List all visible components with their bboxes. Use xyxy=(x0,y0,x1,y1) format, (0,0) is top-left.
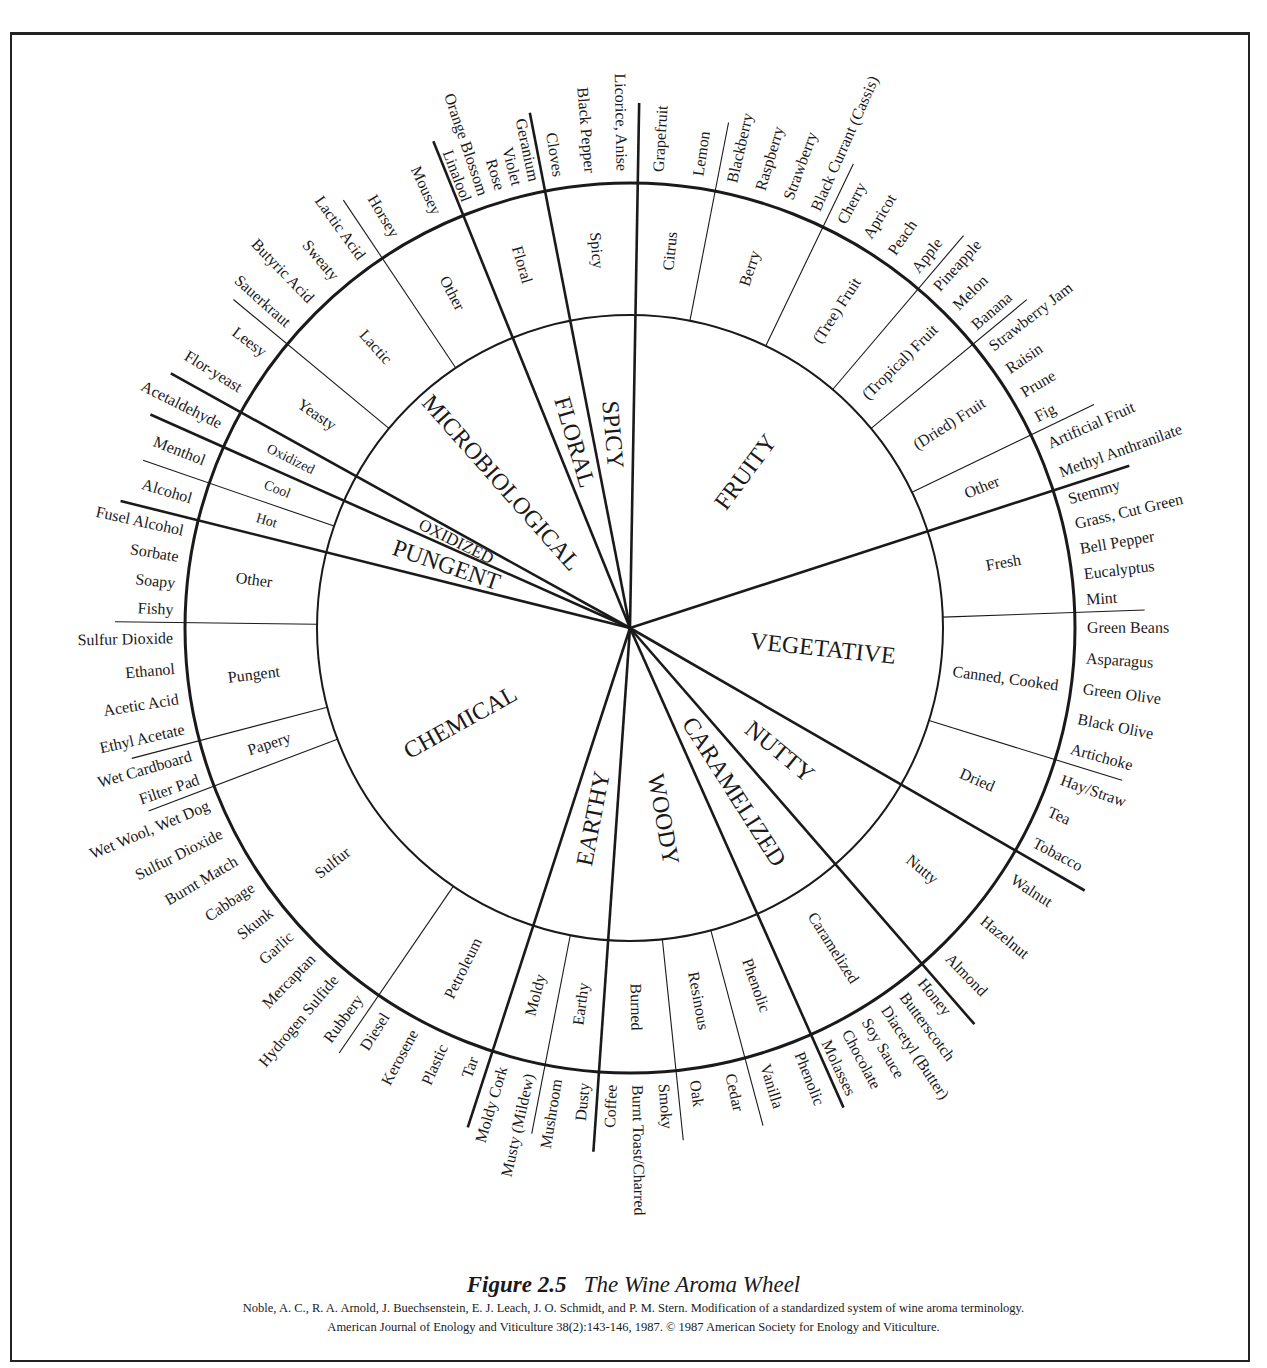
descriptor-label: Skunk xyxy=(234,904,277,943)
subcategory-label: Burned xyxy=(628,983,646,1030)
descriptor-label: Oak xyxy=(687,1079,708,1108)
subcategory-label: Berry xyxy=(736,248,765,288)
aroma-wheel: FRUITYCitrusGrapefruitLemonBerryBlackber… xyxy=(0,0,1267,1368)
descriptor-label: Leesy xyxy=(229,323,270,360)
descriptor-label: Sulfur Dioxide xyxy=(77,629,173,648)
descriptor-label: Cloves xyxy=(543,131,567,178)
descriptor-label: Moldy Cork xyxy=(472,1064,511,1145)
descriptor-label: Horsey xyxy=(364,192,403,241)
descriptor-label: Garlic xyxy=(255,928,296,967)
figure-title: The Wine Aroma Wheel xyxy=(584,1272,801,1297)
descriptor-label: Eucalyptus xyxy=(1083,557,1156,583)
subcategory-label: Earthy xyxy=(569,982,592,1027)
descriptor-label: Hay/Straw xyxy=(1058,771,1129,811)
subcategory-divider xyxy=(912,405,1094,493)
descriptor-label: Stemmy xyxy=(1066,476,1122,508)
descriptor-label: Coffee xyxy=(601,1084,620,1128)
descriptor-label: Green Olive xyxy=(1082,680,1162,707)
descriptor-label: Sorbate xyxy=(129,540,180,564)
descriptor-label: Diesel xyxy=(357,1009,394,1053)
category-divider xyxy=(630,466,1129,628)
category-label: WOODY xyxy=(643,772,685,867)
subcategory-label: (Tropical) Fruit xyxy=(858,320,942,403)
descriptor-label: Green Beans xyxy=(1087,619,1169,636)
subcategory-label: Citrus xyxy=(659,231,680,272)
descriptor-label: Plastic xyxy=(418,1042,451,1088)
descriptor-label: Fishy xyxy=(137,599,173,618)
category-divider xyxy=(630,628,844,1108)
descriptor-label: Lemon xyxy=(689,130,713,177)
descriptor-label: Menthol xyxy=(151,433,208,469)
descriptor-label: Dusty xyxy=(572,1082,594,1122)
figure-title-line: Figure 2.5 The Wine Aroma Wheel xyxy=(0,1272,1267,1298)
category-divider xyxy=(121,501,630,628)
figure-caption: Figure 2.5 The Wine Aroma Wheel Noble, A… xyxy=(0,1272,1267,1336)
subcategory-label: Canned, Cooked xyxy=(952,663,1060,694)
descriptor-label: Blackberry xyxy=(723,111,756,184)
descriptor-label: Grapefruit xyxy=(649,104,671,172)
descriptor-label: Black Olive xyxy=(1076,710,1155,742)
descriptor-label: Bell Pepper xyxy=(1079,527,1157,558)
figure-number: Figure 2.5 xyxy=(467,1272,567,1297)
descriptor-label: Acetaldehyde xyxy=(138,377,225,432)
citation-line-2: American Journal of Enology and Viticult… xyxy=(0,1319,1267,1336)
descriptor-label: Acetic Acid xyxy=(102,690,180,719)
subcategory-divider xyxy=(115,622,317,624)
descriptor-label: Peach xyxy=(884,217,920,258)
subcategory-label: Sulfur xyxy=(311,843,353,882)
descriptor-label: Hazelnut xyxy=(977,912,1033,962)
descriptor-label: Mousey xyxy=(407,163,445,217)
subcategory-label: Petroleum xyxy=(441,934,486,1001)
descriptor-label: Cherry xyxy=(834,179,871,227)
descriptor-label: Fig xyxy=(1032,400,1059,426)
subcategory-label: Nutty xyxy=(902,851,942,888)
descriptor-label: Fusel Alcohol xyxy=(94,503,185,539)
descriptor-label: Raspberry xyxy=(752,124,788,192)
descriptor-label: Cedar xyxy=(722,1072,747,1114)
subcategory-label: Dried xyxy=(957,765,997,795)
subcategory-label: Moldy xyxy=(522,972,550,1018)
descriptor-label: Raisin xyxy=(1002,340,1045,377)
category-label: SPICY xyxy=(597,400,629,470)
descriptor-label: Soapy xyxy=(135,570,177,592)
descriptor-label: Burnt Toast/Charred xyxy=(629,1085,648,1216)
category-label: EARTHY xyxy=(571,769,615,868)
descriptor-label: Ethanol xyxy=(124,660,176,681)
subcategory-label: Oxidized xyxy=(265,441,318,477)
subcategory-label: Fresh xyxy=(984,551,1022,574)
descriptor-label: Hydrogen Sulfide xyxy=(255,972,342,1071)
subcategory-label: Resinous xyxy=(685,970,712,1031)
subcategory-label: Lactic xyxy=(356,326,395,367)
category-label: CHEMICAL xyxy=(399,680,521,764)
category-divider xyxy=(630,628,974,1024)
subcategory-label: Other xyxy=(962,472,1003,502)
subcategory-label: Spicy xyxy=(586,232,607,270)
descriptor-label: Tobacco xyxy=(1030,834,1086,874)
subcategory-label: Papery xyxy=(245,729,293,760)
category-label: VEGETATIVE xyxy=(749,628,897,669)
subcategory-label: Caramelized xyxy=(805,909,863,986)
subcategory-label: Hot xyxy=(254,510,279,530)
descriptor-label: Kerosene xyxy=(378,1027,422,1088)
descriptor-label: Artichoke xyxy=(1069,740,1135,773)
descriptor-label: Asparagus xyxy=(1085,649,1154,671)
descriptor-label: Black Currant (Cassis) xyxy=(807,73,882,214)
descriptor-label: Sweaty xyxy=(299,236,343,284)
descriptor-label: Flor-yeast xyxy=(181,347,246,396)
descriptor-label: Licorice, Anise xyxy=(612,73,631,171)
descriptor-label: Alcohol xyxy=(140,475,195,506)
subcategory-label: Other xyxy=(437,273,469,314)
citation-line-1: Noble, A. C., R. A. Arnold, J. Buechsens… xyxy=(0,1300,1267,1317)
descriptor-label: Almond xyxy=(942,950,991,999)
subcategory-label: Phenolic xyxy=(739,956,774,1014)
descriptor-label: Walnut xyxy=(1008,871,1056,911)
subcategory-label: Other xyxy=(235,569,274,591)
subcategory-label: Pungent xyxy=(227,662,282,686)
descriptor-label: Black Pepper xyxy=(573,87,598,175)
descriptor-label: Tea xyxy=(1045,803,1073,828)
subcategory-label: Yeasty xyxy=(294,395,340,434)
descriptor-label: Tar xyxy=(458,1054,481,1080)
descriptor-label: Mint xyxy=(1086,589,1119,608)
category-label: NUTTY xyxy=(740,716,819,788)
subcategory-label: (Tree) Fruit xyxy=(809,274,865,347)
